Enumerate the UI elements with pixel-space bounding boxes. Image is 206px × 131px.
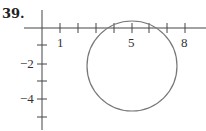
x-tick-label-5: 5	[128, 35, 135, 50]
coordinate-graph: 1 5 8 −2 −4	[0, 0, 206, 131]
x-tick-label-1: 1	[57, 35, 64, 50]
y-tick-label-neg2: −2	[20, 56, 34, 71]
x-tick-label-8: 8	[181, 35, 188, 50]
y-tick-label-neg4: −4	[20, 91, 34, 106]
